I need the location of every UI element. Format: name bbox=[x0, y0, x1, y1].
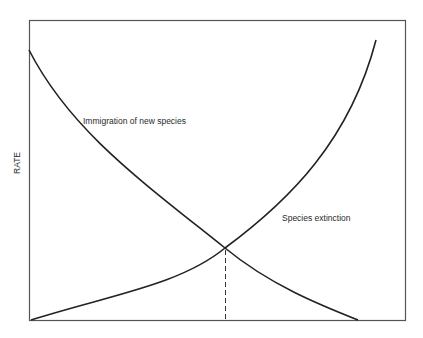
plot-frame bbox=[30, 21, 406, 321]
island-biogeography-diagram: Immigration of new species Species extin… bbox=[0, 0, 423, 338]
extinction-curve bbox=[31, 40, 376, 320]
extinction-label: Species extinction bbox=[282, 213, 351, 223]
immigration-curve bbox=[29, 50, 358, 320]
immigration-label: Immigration of new species bbox=[83, 116, 186, 126]
y-axis-label: RATE bbox=[12, 152, 22, 174]
